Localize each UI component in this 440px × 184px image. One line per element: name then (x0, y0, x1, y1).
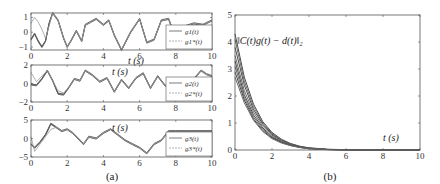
chart-panel-0: 0246810−101g1(t)g1*(t)t (s) (18, 12, 217, 67)
caption-b: (b) (324, 170, 337, 183)
y-tick-label: 2 (228, 91, 233, 101)
chart-panel-1: 0246810−202g2(t)g2*(t)t (s) (18, 60, 217, 113)
x-tick-label: 6 (344, 151, 349, 161)
x-tick-label: 10 (416, 151, 426, 161)
x-tick-label: 10 (208, 51, 218, 61)
x-tick-label: 2 (65, 51, 70, 61)
y-tick-label: 5 (228, 10, 233, 20)
caption-a: (a) (106, 170, 119, 183)
x-tick-label: 6 (137, 103, 142, 113)
x-tick-label: 0 (29, 158, 34, 168)
legend-label: g3*(t) (185, 145, 203, 153)
x-tick-label: 2 (65, 158, 70, 168)
x-tick-label: 4 (101, 51, 106, 61)
y-tick-label: −1 (18, 42, 28, 52)
x-tick-label: 6 (137, 158, 142, 168)
y-tick-label: 0 (24, 27, 29, 37)
y-tick-label: 0 (228, 145, 233, 155)
figure: 0246810−101g1(t)g1*(t)t (s)0246810−202g2… (0, 0, 440, 184)
y-tick-label: 0 (24, 79, 29, 89)
x-tick-label: 2 (270, 151, 275, 161)
legend-label: g1(t) (185, 28, 199, 36)
legend-label: g3(t) (185, 135, 199, 143)
x-axis-label: t (s) (112, 122, 129, 134)
y-tick-label: −2 (18, 97, 28, 107)
y-tick-label: 3 (228, 64, 233, 74)
y-tick-label: 1 (24, 12, 29, 22)
x-tick-label: 2 (65, 103, 70, 113)
x-axis-label: t (s) (383, 132, 400, 144)
legend-label: g2(t) (185, 80, 199, 88)
norm-annotation: ‖C(t)g(t) − d(t)‖₂ (237, 35, 303, 47)
x-tick-label: 4 (101, 103, 106, 113)
x-tick-label: 10 (208, 158, 218, 168)
x-tick-label: 0 (233, 151, 238, 161)
x-tick-label: 10 (208, 103, 218, 113)
y-tick-label: 0 (24, 134, 29, 144)
y-tick-label: −5 (18, 152, 28, 162)
x-tick-label: 0 (29, 103, 34, 113)
x-tick-label: 0 (29, 51, 34, 61)
x-tick-label: 8 (174, 158, 179, 168)
y-tick-label: 2 (24, 60, 29, 70)
x-tick-label: 4 (307, 151, 312, 161)
x-tick-label: 8 (174, 103, 179, 113)
y-tick-label: 1 (228, 118, 233, 128)
x-axis-label: t (s) (112, 66, 129, 78)
chart-panel-2: 0246810−505g3(t)g3*(t)t (s) (18, 115, 217, 168)
legend-label: g2*(t) (185, 90, 203, 98)
x-tick-label: 8 (174, 51, 179, 61)
chart-panel-3: 0246810012345t (s)‖C(t)g(t) − d(t)‖₂ (228, 10, 426, 161)
y-tick-label: 5 (24, 115, 29, 125)
panels: 0246810−101g1(t)g1*(t)t (s)0246810−202g2… (18, 10, 425, 168)
legend-label: g1*(t) (185, 38, 203, 46)
x-tick-label: 8 (381, 151, 386, 161)
y-tick-label: 4 (228, 37, 233, 47)
x-tick-label: 4 (101, 158, 106, 168)
